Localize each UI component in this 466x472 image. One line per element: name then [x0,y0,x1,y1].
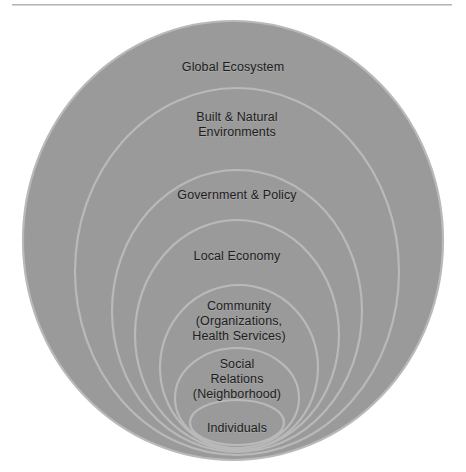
nested-ellipse-diagram [0,0,466,472]
figure-root: Global EcosystemBuilt & Natural Environm… [0,0,466,472]
ellipse-group [23,21,443,460]
ecological-layer-ellipse [190,400,284,445]
